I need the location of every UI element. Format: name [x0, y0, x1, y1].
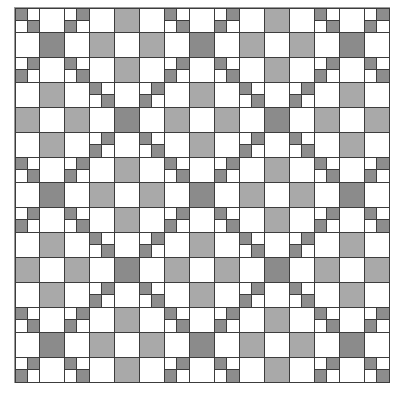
- four-patch-quadrant: [65, 320, 77, 332]
- four-patch-quadrant: [365, 358, 377, 370]
- four-patch-quadrant: [365, 70, 377, 82]
- gray-square: [115, 58, 140, 83]
- four-patch-block: [315, 8, 340, 33]
- four-patch-block: [290, 83, 315, 108]
- white-square: [240, 258, 265, 283]
- four-patch-quadrant: [165, 21, 177, 33]
- white-square: [140, 258, 165, 283]
- four-patch-block: [240, 283, 265, 308]
- four-patch-quadrant: [177, 158, 189, 170]
- white-square: [15, 233, 40, 258]
- white-square: [265, 83, 290, 108]
- gray-square: [315, 258, 340, 283]
- white-square: [65, 183, 90, 208]
- four-patch-quadrant: [65, 208, 77, 220]
- white-square: [315, 183, 340, 208]
- four-patch-quadrant: [290, 233, 302, 245]
- four-patch-quadrant: [77, 58, 89, 70]
- four-patch-quadrant: [65, 308, 77, 320]
- white-square: [340, 358, 365, 383]
- four-patch-quadrant: [290, 283, 302, 295]
- gray-square: [315, 108, 340, 133]
- four-patch-quadrant: [77, 308, 89, 320]
- four-patch-quadrant: [152, 283, 164, 295]
- white-square: [140, 8, 165, 33]
- four-patch-quadrant: [227, 70, 239, 82]
- white-square: [265, 233, 290, 258]
- four-patch-quadrant: [327, 21, 339, 33]
- four-patch-block: [140, 283, 165, 308]
- gray-square: [65, 258, 90, 283]
- gray-square: [340, 233, 365, 258]
- white-square: [90, 8, 115, 33]
- dark-gray-square: [265, 258, 290, 283]
- four-patch-quadrant: [365, 370, 377, 382]
- white-square: [215, 333, 240, 358]
- four-patch-block: [215, 58, 240, 83]
- gray-square: [365, 108, 390, 133]
- four-patch-quadrant: [315, 170, 327, 182]
- four-patch-quadrant: [177, 58, 189, 70]
- four-patch-quadrant: [377, 170, 389, 182]
- four-patch-quadrant: [16, 170, 28, 182]
- four-patch-block: [240, 133, 265, 158]
- four-patch-quadrant: [252, 245, 264, 257]
- four-patch-quadrant: [252, 95, 264, 107]
- four-patch-quadrant: [365, 9, 377, 21]
- four-patch-quadrant: [215, 208, 227, 220]
- four-patch-block: [140, 83, 165, 108]
- four-patch-quadrant: [227, 308, 239, 320]
- white-square: [365, 83, 390, 108]
- white-square: [190, 108, 215, 133]
- four-patch-quadrant: [252, 283, 264, 295]
- white-square: [315, 83, 340, 108]
- four-patch-quadrant: [90, 145, 102, 157]
- four-patch-quadrant: [290, 83, 302, 95]
- four-patch-quadrant: [28, 358, 40, 370]
- dark-gray-square: [190, 33, 215, 58]
- four-patch-quadrant: [302, 233, 314, 245]
- four-patch-quadrant: [102, 295, 114, 307]
- white-square: [165, 333, 190, 358]
- four-patch-block: [365, 58, 390, 83]
- four-patch-quadrant: [152, 83, 164, 95]
- four-patch-quadrant: [65, 220, 77, 232]
- white-square: [365, 133, 390, 158]
- four-patch-quadrant: [165, 308, 177, 320]
- white-square: [215, 183, 240, 208]
- four-patch-block: [315, 158, 340, 183]
- gray-square: [15, 258, 40, 283]
- four-patch-quadrant: [65, 70, 77, 82]
- white-square: [190, 58, 215, 83]
- four-patch-quadrant: [90, 283, 102, 295]
- white-square: [190, 208, 215, 233]
- white-square: [115, 233, 140, 258]
- four-patch-quadrant: [65, 370, 77, 382]
- four-patch-quadrant: [290, 145, 302, 157]
- dark-gray-square: [115, 258, 140, 283]
- four-patch-quadrant: [315, 9, 327, 21]
- gray-square: [215, 258, 240, 283]
- quilt-grid: [14, 7, 390, 383]
- dark-gray-square: [40, 333, 65, 358]
- white-square: [165, 283, 190, 308]
- white-square: [90, 108, 115, 133]
- white-square: [340, 8, 365, 33]
- dark-gray-square: [340, 183, 365, 208]
- four-patch-quadrant: [215, 9, 227, 21]
- gray-square: [365, 258, 390, 283]
- white-square: [265, 133, 290, 158]
- white-square: [215, 133, 240, 158]
- white-square: [65, 233, 90, 258]
- four-patch-quadrant: [140, 83, 152, 95]
- four-patch-block: [215, 208, 240, 233]
- four-patch-quadrant: [240, 83, 252, 95]
- four-patch-quadrant: [327, 70, 339, 82]
- four-patch-quadrant: [327, 9, 339, 21]
- four-patch-block: [90, 283, 115, 308]
- four-patch-quadrant: [365, 308, 377, 320]
- four-patch-quadrant: [16, 58, 28, 70]
- four-patch-quadrant: [28, 320, 40, 332]
- four-patch-quadrant: [77, 21, 89, 33]
- gray-square: [140, 333, 165, 358]
